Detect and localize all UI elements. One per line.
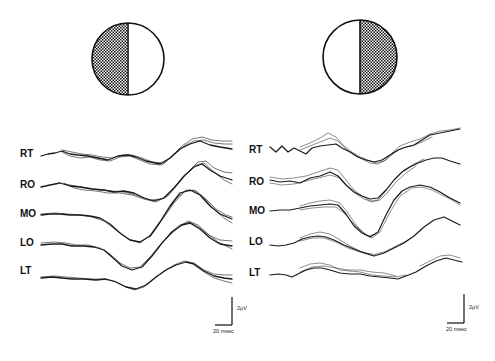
right-stimulus-icon [323, 20, 397, 94]
channel-label-lt: LT [20, 265, 31, 276]
scale-voltage-label: 2μV [469, 304, 479, 310]
channel-label-lt: LT [249, 267, 260, 278]
trace-rt [41, 137, 232, 165]
scale-voltage-label: 2μV [237, 305, 247, 311]
trace-ro [41, 161, 232, 202]
trace-ro [270, 158, 460, 202]
left-stimulus-icon [92, 23, 164, 95]
figure: RT RO MO LO LT [0, 0, 495, 361]
channel-label-mo: MO [249, 205, 265, 216]
right-scale-bar: 2μV 20 msec [446, 294, 479, 332]
trace-lo [41, 221, 232, 270]
trace-lt [41, 261, 232, 290]
channel-label-lo: LO [249, 236, 263, 247]
scale-time-label: 20 msec [213, 328, 234, 334]
right-panel: RT RO MO LO LT [249, 128, 479, 332]
trace-lt [270, 255, 462, 279]
channel-label-lo: LO [20, 237, 34, 248]
trace-lo [270, 217, 460, 256]
channel-label-ro: RO [249, 176, 264, 187]
channel-label-mo: MO [20, 208, 36, 219]
channel-label-ro: RO [20, 179, 35, 190]
scale-time-label: 20 msec [446, 326, 467, 332]
channel-label-rt: RT [249, 144, 262, 155]
trace-mo [41, 190, 232, 243]
left-scale-bar: 2μV 20 msec [213, 297, 247, 334]
trace-mo [270, 185, 460, 238]
left-panel: RT RO MO LO LT [20, 137, 247, 334]
channel-label-rt: RT [20, 148, 33, 159]
